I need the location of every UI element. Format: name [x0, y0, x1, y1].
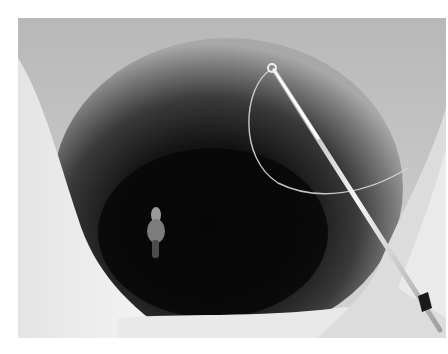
lure-tail [152, 240, 159, 258]
dark-water [98, 148, 328, 318]
ice-fishing-photo [18, 18, 446, 338]
lure-body [147, 219, 165, 243]
photo-canvas [18, 18, 446, 338]
